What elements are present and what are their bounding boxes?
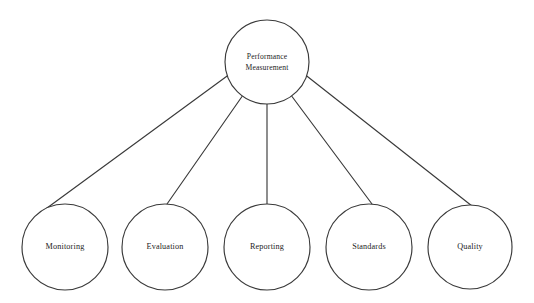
node-label-evaluation: Evaluation [147, 242, 184, 251]
node-reporting[interactable]: Reporting [224, 204, 310, 290]
node-label-quality: Quality [457, 242, 483, 251]
edge-root-standards [292, 97, 372, 205]
node-evaluation[interactable]: Evaluation [122, 204, 208, 290]
diagram-canvas: Performance Measurement Monitoring Evalu… [0, 0, 534, 303]
node-monitoring[interactable]: Monitoring [22, 204, 108, 290]
node-root[interactable]: Performance Measurement [225, 20, 309, 104]
edge-root-evaluation [167, 97, 242, 205]
node-standards[interactable]: Standards [326, 204, 412, 290]
edge-root-quality [306, 75, 473, 206]
edge-root-monitoring [47, 75, 229, 208]
hierarchy-diagram: Performance Measurement Monitoring Evalu… [0, 0, 534, 303]
node-label-reporting: Reporting [250, 242, 284, 251]
node-label-standards: Standards [352, 242, 386, 251]
node-quality[interactable]: Quality [428, 205, 512, 289]
node-label-performance-measurement-line1: Performance [247, 52, 288, 61]
node-label-performance-measurement-line2: Measurement [246, 63, 290, 72]
node-label-monitoring: Monitoring [46, 242, 85, 251]
